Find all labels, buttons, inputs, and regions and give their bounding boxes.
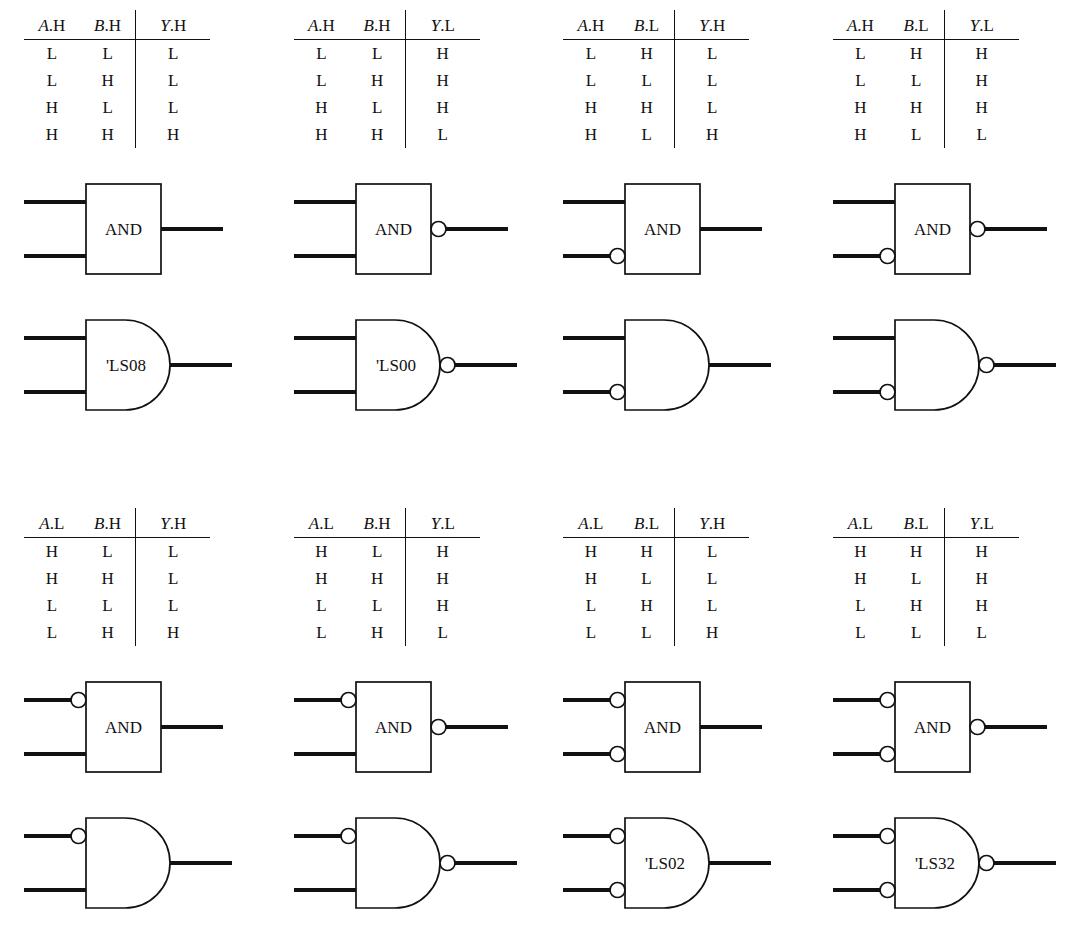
table-row: HHH (833, 538, 1019, 566)
truth-table-cell: H (944, 592, 1018, 619)
gate-drawing: AND (18, 668, 248, 786)
truth-table-header-b: B.H (80, 10, 136, 40)
truth-table-cell: L (833, 40, 889, 68)
truth-table-cell: L (888, 619, 944, 646)
truth-table: A.LB.LY.LHHHHLHLHHLLL (833, 508, 1019, 646)
truth-table-cell: L (80, 538, 136, 566)
input-inversion-bubble (610, 693, 625, 708)
header-suffix: .H (374, 514, 391, 533)
truth-table-cell: H (944, 67, 1018, 94)
gate-label: AND (105, 718, 142, 737)
header-variable: Y (970, 16, 979, 35)
truth-table-cell: H (675, 619, 749, 646)
header-suffix: .L (644, 514, 659, 533)
truth-table-cell: L (349, 538, 405, 566)
distinctive-gate-symbol: 'LS32 (809, 804, 1078, 922)
truth-table-header-a: A.H (563, 10, 619, 40)
truth-table-cell: H (944, 40, 1018, 68)
truth-table-cell: L (349, 94, 405, 121)
truth-table-cell: H (405, 565, 479, 592)
header-suffix: .L (979, 16, 994, 35)
header-suffix: .L (589, 514, 604, 533)
table-row: HHH (294, 565, 480, 592)
table-row: HHH (24, 121, 210, 148)
gate-block-6: A.LB.HY.LHLHHHHLLHLHLAND (270, 508, 540, 922)
header-variable: B (634, 16, 644, 35)
gate-body-dshape (86, 818, 170, 908)
truth-table-cell: H (405, 592, 479, 619)
input-inversion-bubble (610, 747, 625, 762)
truth-table-cell: H (24, 94, 80, 121)
truth-table-cell: H (619, 40, 675, 68)
header-variable: A (38, 16, 48, 35)
truth-table-cell: H (888, 40, 944, 68)
gate-drawing (827, 306, 1057, 424)
truth-table-header-b: B.H (80, 508, 136, 538)
truth-table-cell: H (405, 538, 479, 566)
truth-table-cell: H (833, 538, 889, 566)
header-suffix: .H (374, 16, 391, 35)
gate-label: 'LS32 (915, 854, 955, 873)
truth-table-header-y: Y.H (136, 10, 210, 40)
header-suffix: .L (914, 514, 929, 533)
truth-table-cell: L (675, 40, 749, 68)
truth-table-header-a: A.L (24, 508, 80, 538)
header-suffix: .H (104, 514, 121, 533)
truth-table-cell: H (619, 592, 675, 619)
header-suffix: .L (644, 16, 659, 35)
truth-table-cell: H (888, 592, 944, 619)
input-inversion-bubble (880, 385, 895, 400)
gate-label: AND (375, 220, 412, 239)
gate-body-dshape (356, 818, 440, 908)
truth-table-cell: H (833, 94, 889, 121)
truth-table-cell: H (675, 121, 749, 148)
truth-table: A.LB.HY.HHLLHHLLLLLHH (24, 508, 210, 646)
table-row: LHH (833, 592, 1019, 619)
table-row: LLL (833, 619, 1019, 646)
header-suffix: .L (858, 514, 873, 533)
gate-body-dshape (895, 320, 979, 410)
input-inversion-bubble (71, 693, 86, 708)
table-row: LLL (24, 40, 210, 68)
gate-block-8: A.LB.LY.LHHHHLHLHHLLLAND'LS32 (809, 508, 1078, 922)
truth-table: A.HB.LY.LLHHLLHHHHHLL (833, 10, 1019, 148)
table-row: LLL (24, 592, 210, 619)
rectangular-gate-symbol: AND (270, 668, 540, 786)
truth-table-cell: H (136, 619, 210, 646)
header-suffix: .L (319, 514, 334, 533)
input-inversion-bubble (610, 249, 625, 264)
truth-table-cell: H (349, 619, 405, 646)
gate-label: AND (914, 220, 951, 239)
truth-table-cell: L (136, 565, 210, 592)
table-row: LHH (294, 67, 480, 94)
rectangular-gate-symbol: AND (809, 668, 1078, 786)
header-variable: Y (970, 514, 979, 533)
table-row: LHL (563, 40, 749, 68)
gate-label: AND (644, 220, 681, 239)
truth-table-header-y: Y.L (944, 10, 1018, 40)
table-row: LLH (833, 67, 1019, 94)
header-suffix: .H (49, 16, 66, 35)
truth-table-cell: L (944, 619, 1018, 646)
header-variable: Y (431, 16, 440, 35)
gate-drawing: AND (288, 170, 518, 288)
table-row: LHL (24, 67, 210, 94)
distinctive-gate-symbol (539, 306, 809, 424)
truth-table-cell: L (294, 592, 350, 619)
gate-drawing (288, 804, 518, 922)
truth-table-cell: H (888, 538, 944, 566)
truth-table: A.HB.HY.HLLLLHLHLLHHH (24, 10, 210, 148)
truth-table-cell: L (833, 67, 889, 94)
truth-table-cell: H (294, 121, 350, 148)
table-row: LHH (24, 619, 210, 646)
truth-table-header-b: B.H (349, 508, 405, 538)
header-suffix: .L (979, 514, 994, 533)
gate-label: AND (105, 220, 142, 239)
truth-table-cell: L (80, 592, 136, 619)
truth-table-cell: H (24, 121, 80, 148)
rectangular-gate-symbol: AND (270, 170, 540, 288)
truth-table-cell: L (888, 67, 944, 94)
truth-table-cell: H (136, 121, 210, 148)
table-row: LLH (294, 40, 480, 68)
truth-table-cell: H (80, 619, 136, 646)
